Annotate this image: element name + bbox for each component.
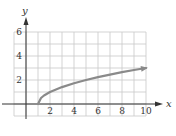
curve [38,68,146,104]
curves [38,66,148,104]
x-tick-labels: 246810 [47,106,152,116]
y-tick-label: 4 [16,51,22,61]
grid [14,32,146,116]
x-tick-label: 10 [140,106,152,116]
function-graph: x y 246810 246 [0,0,176,136]
x-tick-label: 6 [95,106,101,116]
x-tick-label: 2 [47,106,53,116]
y-tick-label: 2 [16,75,22,85]
y-tick-label: 6 [16,27,22,37]
curve-arrow-icon [141,66,148,72]
x-axis-arrow-icon [155,102,163,107]
y-axis-label: y [21,5,28,16]
x-tick-label: 8 [119,106,125,116]
x-axis-label: x [166,98,172,109]
x-tick-label: 4 [71,106,77,116]
axes: x y [2,5,172,119]
y-tick-labels: 246 [16,27,22,85]
y-axis-arrow-icon [24,17,29,25]
